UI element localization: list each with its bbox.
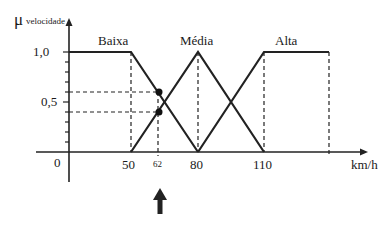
point-baixa-62: [156, 89, 163, 96]
arrow-up-icon: [153, 188, 167, 214]
y-tick-05: 0,5: [41, 94, 57, 110]
guide-lines: [69, 52, 329, 156]
series-baixa: [69, 52, 198, 152]
y-ticks: [63, 52, 69, 142]
mu-subscript: velocidade: [26, 16, 65, 26]
label-media: Média: [180, 33, 213, 49]
x-axis-arrow-icon: [360, 149, 368, 156]
x-tick-50: 50: [122, 157, 135, 173]
x-tick-110: 110: [253, 157, 272, 173]
point-media-62: [156, 109, 163, 116]
x-tick-80: 80: [190, 157, 203, 173]
mu-symbol: μ: [14, 10, 23, 30]
y-tick-1: 1,0: [33, 44, 49, 60]
x-axis-unit: km/h: [351, 157, 378, 173]
x-tick-0: 0: [54, 155, 61, 171]
label-alta: Alta: [275, 33, 297, 49]
label-baixa: Baixa: [98, 33, 128, 49]
x-tick-62: 62: [153, 159, 162, 169]
y-axis-arrow-icon: [66, 18, 73, 26]
